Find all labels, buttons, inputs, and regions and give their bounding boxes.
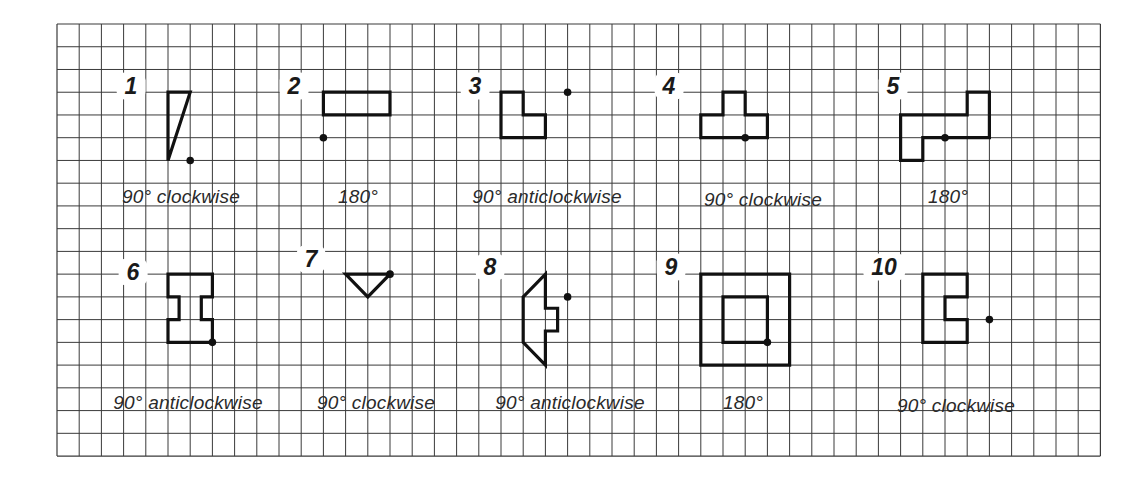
rotation-centre-dot bbox=[320, 134, 328, 142]
exercise-number: 5 bbox=[879, 73, 908, 100]
rotation-centre-dot bbox=[209, 339, 217, 347]
exercise-number: 3 bbox=[461, 73, 490, 100]
exercise-number: 7 bbox=[297, 246, 326, 273]
exercise-number: 10 bbox=[863, 254, 905, 281]
rotation-instruction: 90° clockwise bbox=[704, 189, 822, 211]
exercise-number: 1 bbox=[117, 73, 146, 100]
rotation-instruction: 90° anticlockwise bbox=[113, 392, 262, 414]
rotation-instruction: 90° clockwise bbox=[317, 392, 435, 414]
rotation-centre-dot bbox=[386, 270, 394, 278]
rotation-centre-dot bbox=[186, 157, 194, 165]
rotation-centre-dot bbox=[564, 293, 572, 301]
rotation-instruction: 180° bbox=[928, 186, 968, 208]
rotation-centre-dot bbox=[741, 134, 749, 142]
shape-1 bbox=[168, 92, 190, 160]
rotation-centre-dot bbox=[764, 339, 772, 347]
rotation-instruction: 180° bbox=[723, 392, 763, 414]
exercise-number: 4 bbox=[655, 73, 684, 100]
exercise-number: 9 bbox=[657, 254, 686, 281]
rotation-centre-dot bbox=[941, 134, 949, 142]
rotation-centre-dot bbox=[986, 316, 994, 324]
exercise-number: 2 bbox=[280, 73, 309, 100]
rotation-instruction: 180° bbox=[338, 186, 378, 208]
rotation-instruction: 90° clockwise bbox=[897, 395, 1015, 417]
shape-2 bbox=[323, 92, 390, 115]
rotation-instruction: 90° anticlockwise bbox=[495, 392, 644, 414]
exercise-number: 6 bbox=[119, 259, 148, 286]
rotation-instruction: 90° clockwise bbox=[122, 186, 240, 208]
rotation-centre-dot bbox=[564, 88, 572, 96]
rotation-instruction: 90° anticlockwise bbox=[472, 186, 621, 208]
exercise-number: 8 bbox=[476, 254, 505, 281]
